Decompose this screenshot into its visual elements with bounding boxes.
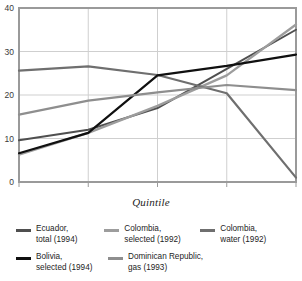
legend-item-dominican-gas[interactable]: Dominican Republic, gas (1993) (108, 252, 202, 273)
x-axis-ticks (19, 183, 296, 187)
line-chart-svg: 010203040 12345 (0, 0, 302, 190)
y-tick-label: 0 (9, 177, 14, 187)
y-tick-label: 30 (5, 47, 15, 57)
y-tick-label: 20 (5, 90, 15, 100)
legend-item-colombia-selected[interactable]: Colombia, selected (1992) (104, 224, 194, 245)
y-tick-label: 10 (5, 134, 15, 144)
legend-swatch-ecuador-total (16, 229, 31, 232)
legend-swatch-dominican-gas (108, 257, 123, 260)
x-axis-tick-labels: 12345 (17, 189, 299, 190)
chart-figure: 010203040 12345 Quintile Ecuador, total … (0, 0, 302, 281)
legend-swatch-colombia-selected (104, 229, 119, 232)
x-tick-label: 1 (17, 189, 22, 190)
x-tick-label: 3 (155, 189, 160, 190)
legend-label-colombia-selected: Colombia, selected (1992) (124, 224, 180, 245)
legend-row-1: Ecuador, total (1994) Colombia, selected… (16, 224, 302, 252)
grid-lines (19, 8, 296, 182)
legend-item-colombia-water[interactable]: Colombia, water (1992) (200, 224, 296, 245)
y-axis-tick-labels: 010203040 (5, 3, 15, 187)
legend-label-dominican-gas: Dominican Republic, gas (1993) (128, 252, 203, 273)
x-tick-label: 5 (294, 189, 299, 190)
plot-area: 010203040 12345 (0, 0, 302, 190)
legend-label-colombia-water: Colombia, water (1992) (220, 224, 266, 245)
legend-item-ecuador-total[interactable]: Ecuador, total (1994) (16, 224, 98, 245)
legend-item-bolivia-selected[interactable]: Bolivia, selected (1994) (16, 252, 102, 273)
x-tick-label: 2 (86, 189, 91, 190)
chart-legend: Ecuador, total (1994) Colombia, selected… (16, 224, 302, 280)
legend-label-bolivia-selected: Bolivia, selected (1994) (36, 252, 92, 273)
y-tick-label: 40 (5, 3, 15, 13)
legend-label-ecuador-total: Ecuador, total (1994) (36, 224, 77, 245)
legend-swatch-bolivia-selected (16, 257, 31, 260)
legend-row-2: Bolivia, selected (1994) Dominican Repub… (16, 252, 302, 280)
x-axis-title: Quintile (0, 196, 302, 208)
x-tick-label: 4 (224, 189, 229, 190)
legend-swatch-colombia-water (200, 229, 215, 232)
